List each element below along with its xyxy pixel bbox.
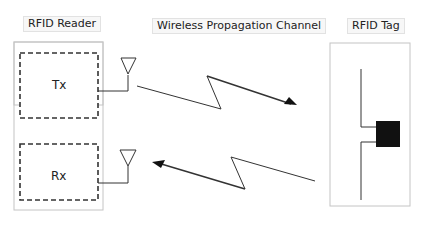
tx-antenna-icon xyxy=(98,58,136,91)
tag-chip xyxy=(376,121,400,147)
tx-label: Tx xyxy=(52,78,66,92)
tag-antenna-icon xyxy=(361,69,376,200)
forward-signal-icon xyxy=(137,76,297,109)
rx-label: Rx xyxy=(51,169,66,183)
backward-signal-icon xyxy=(152,157,315,189)
rx-antenna-icon xyxy=(98,150,136,183)
